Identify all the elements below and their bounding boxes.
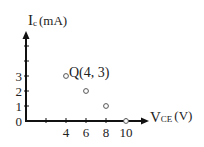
y-tick-label: 0 xyxy=(16,114,23,129)
y-axis-arrow-icon xyxy=(23,31,30,39)
x-axis-title: VCE(V) xyxy=(150,108,192,125)
x-tick-labels: 46810 xyxy=(63,125,133,140)
y-tick-label: 2 xyxy=(16,84,23,99)
data-point-circle-icon xyxy=(124,119,129,124)
x-tick-label: 6 xyxy=(83,125,90,140)
data-points xyxy=(64,74,129,124)
q-point-label: Q(4, 3) xyxy=(69,65,110,81)
x-tick-label: 4 xyxy=(63,125,70,140)
x-axis-arrow-icon xyxy=(141,118,149,125)
y-tick-label: 3 xyxy=(16,69,23,84)
y-tick-labels: 0123 xyxy=(16,69,23,129)
annotations: Q(4, 3) xyxy=(69,65,110,81)
x-axis: 46810 VCE(V) xyxy=(25,108,192,140)
data-point-circle-icon xyxy=(104,104,109,109)
y-axis: 0123 Ic(mA) xyxy=(16,12,68,129)
x-tick-label: 8 xyxy=(103,125,110,140)
x-tick-label: 10 xyxy=(120,125,133,140)
data-point-circle-icon xyxy=(84,89,89,94)
chart: 0123 Ic(mA) 46810 VCE(V) Q(4, 3) xyxy=(0,0,204,147)
data-point-circle-icon xyxy=(64,74,69,79)
y-axis-title: Ic(mA) xyxy=(28,12,67,28)
y-tick-label: 1 xyxy=(16,99,23,114)
